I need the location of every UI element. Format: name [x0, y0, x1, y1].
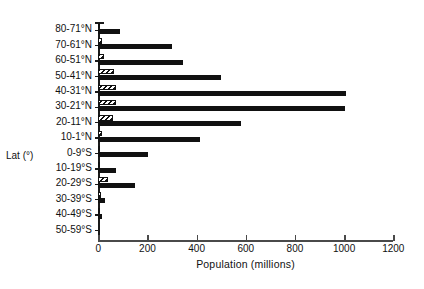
- category-label: 30-39°S: [0, 193, 92, 205]
- chart-row: 10-19°S: [0, 161, 424, 176]
- bar-solid: [98, 75, 221, 80]
- bar-solid: [98, 91, 346, 96]
- chart-row: 10-1°N: [0, 130, 424, 145]
- category-label: 50-41°N: [0, 70, 92, 82]
- x-axis-title: Population (millions): [98, 258, 393, 270]
- chart-row: 40-31°N: [0, 84, 424, 99]
- bar-hatched: [98, 69, 113, 74]
- chart-row: 20-29°S: [0, 176, 424, 191]
- category-label: 60-51°N: [0, 54, 92, 66]
- chart-row: 60-51°N: [0, 53, 424, 68]
- bar-hatched: [98, 115, 113, 120]
- category-label: 20-11°N: [0, 116, 92, 128]
- chart-row: 40-49°S: [0, 207, 424, 222]
- bar-hatched: [98, 162, 100, 167]
- bar-hatched: [98, 23, 100, 28]
- bar-solid: [98, 152, 148, 157]
- category-label: 20-29°S: [0, 177, 92, 189]
- chart-row: 50-41°N: [0, 68, 424, 83]
- bar-hatched: [98, 146, 100, 151]
- bar-hatched: [98, 85, 116, 90]
- bar-solid: [98, 121, 241, 126]
- bar-solid: [98, 214, 101, 219]
- bar-hatched: [98, 100, 115, 105]
- bar-hatched: [98, 192, 101, 197]
- chart-row: 30-21°N: [0, 99, 424, 114]
- bar-solid: [98, 183, 135, 188]
- category-label: 40-49°S: [0, 208, 92, 220]
- bar-solid: [98, 44, 172, 49]
- chart-row: 80-71°N: [0, 22, 424, 37]
- chart-row: 50-59°S: [0, 222, 424, 237]
- category-label: 10-19°S: [0, 162, 92, 174]
- category-label: 30-21°N: [0, 100, 92, 112]
- x-axis-tick-label: 1200: [363, 243, 423, 255]
- category-label: 50-59°S: [0, 224, 92, 236]
- y-axis-tick: [95, 230, 100, 231]
- bar-hatched: [98, 131, 101, 136]
- bar-solid: [98, 106, 345, 111]
- bar-solid: [98, 198, 104, 203]
- bar-solid: [98, 168, 116, 173]
- category-label: 80-71°N: [0, 23, 92, 35]
- y-axis-title: Lat (°): [6, 150, 33, 162]
- category-label: 40-31°N: [0, 85, 92, 97]
- category-label: 70-61°N: [0, 39, 92, 51]
- bar-hatched: [98, 54, 103, 59]
- chart-row: 30-39°S: [0, 191, 424, 206]
- bar-hatched: [98, 177, 108, 182]
- bar-solid: [98, 29, 120, 34]
- chart-row: 70-61°N: [0, 37, 424, 52]
- category-label: 10-1°N: [0, 131, 92, 143]
- bar-hatched: [98, 38, 101, 43]
- chart-row: 20-11°N: [0, 114, 424, 129]
- bar-solid: [98, 137, 200, 142]
- bar-solid: [98, 60, 183, 65]
- chart-row: 0-9°S: [0, 145, 424, 160]
- population-by-latitude-chart: 020040060080010001200 80-71°N70-61°N60-5…: [0, 0, 424, 289]
- bar-hatched: [98, 208, 100, 213]
